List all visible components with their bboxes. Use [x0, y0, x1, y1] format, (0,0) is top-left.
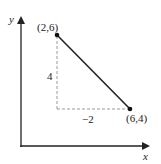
- y-axis-label: y: [8, 13, 14, 25]
- point-label-6-4: (6,4): [126, 112, 147, 125]
- rise-label: 4: [47, 70, 53, 82]
- x-axis-label: x: [142, 150, 148, 162]
- point-6-4: [128, 107, 133, 112]
- run-label: −2: [82, 113, 94, 125]
- point-label-2-6: (2,6): [37, 21, 58, 34]
- point-2-6: [55, 33, 60, 38]
- line-segment: [57, 35, 130, 109]
- coordinate-diagram: y x (2,6) (6,4) 4 −2: [0, 0, 161, 164]
